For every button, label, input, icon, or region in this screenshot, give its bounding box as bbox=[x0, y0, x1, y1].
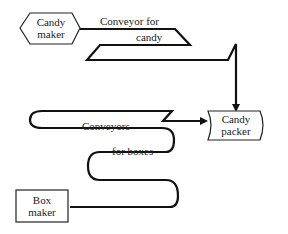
box-maker-line2: maker bbox=[16, 206, 68, 218]
candy-maker-line1: Candy bbox=[28, 16, 74, 28]
candy-conveyor-label-2: candy bbox=[136, 31, 162, 43]
candy-maker-label: Candy maker bbox=[28, 16, 74, 40]
candy-conveyor-label-1: Conveyor for bbox=[100, 15, 159, 27]
box-maker-label: Box maker bbox=[16, 194, 68, 218]
candy-packer-line2: packer bbox=[212, 125, 260, 137]
candy-packer-line1: Candy bbox=[212, 113, 260, 125]
box-conveyor-label-2: for boxes bbox=[112, 145, 153, 157]
box-maker-line1: Box bbox=[16, 194, 68, 206]
arrow-head-right bbox=[200, 117, 208, 125]
box-conveyor-label-1: Conveyors bbox=[82, 120, 130, 132]
candy-packer-label: Candy packer bbox=[212, 113, 260, 137]
candy-maker-line2: maker bbox=[28, 28, 74, 40]
